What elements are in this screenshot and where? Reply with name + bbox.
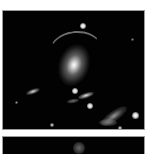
faint-source-left [15, 101, 18, 104]
bright-star-right [132, 112, 139, 119]
galaxy-panel-2 [73, 142, 85, 154]
astro-image-panel-1 [2, 10, 145, 130]
faint-source-right [131, 38, 134, 41]
astro-image-panel-2 [2, 136, 145, 154]
source-bottom-edge [118, 126, 122, 130]
faint-streak [67, 98, 80, 104]
lensing-arc [47, 28, 105, 75]
star-lower-mid [87, 103, 93, 109]
lensed-arc-lower-right-tail [99, 119, 117, 126]
elongated-galaxy-center [78, 91, 95, 101]
bright-star-top [80, 23, 86, 29]
compact-galaxy-center [72, 88, 78, 94]
edge-on-galaxy-left [26, 87, 41, 96]
star-bottom-left [50, 123, 54, 127]
